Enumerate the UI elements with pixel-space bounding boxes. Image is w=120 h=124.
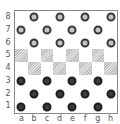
file-label-f: f xyxy=(79,113,92,124)
square-c5[interactable] xyxy=(41,49,54,62)
square-g1[interactable] xyxy=(92,100,105,113)
square-a2[interactable] xyxy=(15,88,28,101)
square-a1[interactable] xyxy=(15,100,28,113)
light-checker-piece-icon[interactable] xyxy=(30,13,39,22)
square-c3[interactable] xyxy=(41,75,54,88)
square-b1[interactable] xyxy=(28,100,41,113)
rank-label-4: 4 xyxy=(4,62,12,75)
file-label-d: d xyxy=(53,113,66,124)
square-f3[interactable] xyxy=(79,75,92,88)
light-checker-piece-icon[interactable] xyxy=(106,13,115,22)
dark-checker-piece-icon[interactable] xyxy=(93,102,102,111)
rank-label-2: 2 xyxy=(4,88,12,101)
square-g2[interactable] xyxy=(92,88,105,101)
square-f7[interactable] xyxy=(79,24,92,37)
square-d1[interactable] xyxy=(53,100,66,113)
square-h1[interactable] xyxy=(104,100,117,113)
square-g4[interactable] xyxy=(92,62,105,75)
square-f1[interactable] xyxy=(79,100,92,113)
square-c6[interactable] xyxy=(41,37,54,50)
square-d8[interactable] xyxy=(53,11,66,24)
square-c7[interactable] xyxy=(41,24,54,37)
rank-label-3: 3 xyxy=(4,75,12,88)
light-checker-piece-icon[interactable] xyxy=(106,38,115,47)
square-a6[interactable] xyxy=(15,37,28,50)
file-label-a: a xyxy=(15,113,28,124)
square-f2[interactable] xyxy=(79,88,92,101)
light-checker-piece-icon[interactable] xyxy=(81,13,90,22)
square-e2[interactable] xyxy=(66,88,79,101)
square-c1[interactable] xyxy=(41,100,54,113)
dark-checker-piece-icon[interactable] xyxy=(81,89,90,98)
square-g3[interactable] xyxy=(92,75,105,88)
square-f5[interactable] xyxy=(79,49,92,62)
light-checker-piece-icon[interactable] xyxy=(17,26,26,35)
square-a5[interactable] xyxy=(15,49,28,62)
square-h6[interactable] xyxy=(104,37,117,50)
square-b8[interactable] xyxy=(28,11,41,24)
dark-checker-piece-icon[interactable] xyxy=(30,89,39,98)
dark-checker-piece-icon[interactable] xyxy=(42,77,51,86)
square-d5[interactable] xyxy=(53,49,66,62)
square-b6[interactable] xyxy=(28,37,41,50)
square-g6[interactable] xyxy=(92,37,105,50)
square-g8[interactable] xyxy=(92,11,105,24)
square-d2[interactable] xyxy=(53,88,66,101)
square-f4[interactable] xyxy=(79,62,92,75)
square-c8[interactable] xyxy=(41,11,54,24)
square-e3[interactable] xyxy=(66,75,79,88)
square-c2[interactable] xyxy=(41,88,54,101)
dark-checker-piece-icon[interactable] xyxy=(17,102,26,111)
square-g5[interactable] xyxy=(92,49,105,62)
dark-checker-piece-icon[interactable] xyxy=(17,77,26,86)
square-d3[interactable] xyxy=(53,75,66,88)
file-label-e: e xyxy=(66,113,79,124)
square-g7[interactable] xyxy=(92,24,105,37)
square-h8[interactable] xyxy=(104,11,117,24)
dark-checker-piece-icon[interactable] xyxy=(93,77,102,86)
checkers-board xyxy=(14,10,118,114)
square-h2[interactable] xyxy=(104,88,117,101)
square-a7[interactable] xyxy=(15,24,28,37)
square-b5[interactable] xyxy=(28,49,41,62)
light-checker-piece-icon[interactable] xyxy=(68,26,77,35)
square-c4[interactable] xyxy=(41,62,54,75)
square-b7[interactable] xyxy=(28,24,41,37)
square-b2[interactable] xyxy=(28,88,41,101)
square-d6[interactable] xyxy=(53,37,66,50)
dark-checker-piece-icon[interactable] xyxy=(55,89,64,98)
file-label-g: g xyxy=(92,113,105,124)
square-h3[interactable] xyxy=(104,75,117,88)
light-checker-piece-icon[interactable] xyxy=(93,26,102,35)
square-e8[interactable] xyxy=(66,11,79,24)
square-e6[interactable] xyxy=(66,37,79,50)
file-label-b: b xyxy=(28,113,41,124)
rank-label-5: 5 xyxy=(4,49,12,62)
dark-checker-piece-icon[interactable] xyxy=(106,89,115,98)
square-h7[interactable] xyxy=(104,24,117,37)
square-e1[interactable] xyxy=(66,100,79,113)
light-checker-piece-icon[interactable] xyxy=(55,38,64,47)
square-e7[interactable] xyxy=(66,24,79,37)
square-h5[interactable] xyxy=(104,49,117,62)
light-checker-piece-icon[interactable] xyxy=(55,13,64,22)
square-f8[interactable] xyxy=(79,11,92,24)
square-a4[interactable] xyxy=(15,62,28,75)
dark-checker-piece-icon[interactable] xyxy=(68,77,77,86)
light-checker-piece-icon[interactable] xyxy=(42,26,51,35)
square-d7[interactable] xyxy=(53,24,66,37)
light-checker-piece-icon[interactable] xyxy=(30,38,39,47)
rank-label-8: 8 xyxy=(4,11,12,24)
light-checker-piece-icon[interactable] xyxy=(81,38,90,47)
square-b4[interactable] xyxy=(28,62,41,75)
dark-checker-piece-icon[interactable] xyxy=(68,102,77,111)
square-h4[interactable] xyxy=(104,62,117,75)
square-e4[interactable] xyxy=(66,62,79,75)
square-a3[interactable] xyxy=(15,75,28,88)
square-d4[interactable] xyxy=(53,62,66,75)
square-a8[interactable] xyxy=(15,11,28,24)
dark-checker-piece-icon[interactable] xyxy=(42,102,51,111)
square-e5[interactable] xyxy=(66,49,79,62)
square-f6[interactable] xyxy=(79,37,92,50)
square-b3[interactable] xyxy=(28,75,41,88)
